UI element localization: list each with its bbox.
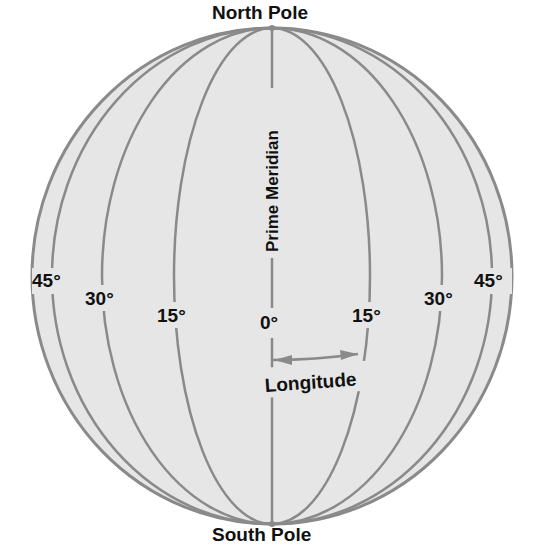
north-pole-point bbox=[269, 25, 275, 31]
globe-diagram bbox=[0, 0, 544, 557]
degree-label-0: 0° bbox=[260, 312, 278, 334]
degree-label-left-15: 15° bbox=[157, 305, 186, 327]
prime-meridian-label: Prime Meridian bbox=[263, 130, 283, 252]
south-pole-label: South Pole bbox=[212, 524, 311, 546]
degree-label-right-30: 30° bbox=[424, 288, 453, 310]
degree-label-left-30: 30° bbox=[85, 288, 114, 310]
degree-label-right-15: 15° bbox=[352, 305, 381, 327]
north-pole-label: North Pole bbox=[212, 2, 308, 24]
degree-label-right-45: 45° bbox=[474, 270, 503, 292]
degree-label-left-45: 45° bbox=[32, 270, 61, 292]
